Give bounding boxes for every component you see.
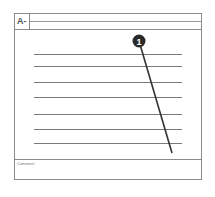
callout-annotation: 1 <box>0 0 215 197</box>
leader-line <box>139 41 172 153</box>
callout-number: 1 <box>136 37 141 47</box>
